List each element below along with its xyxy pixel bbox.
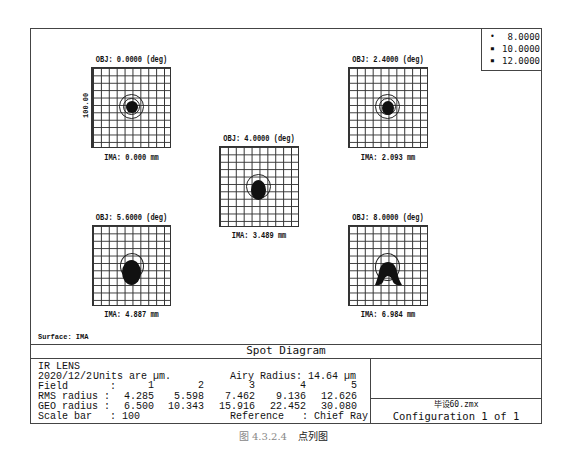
legend-item: ▪ 10.0000 [486, 43, 540, 55]
scale-bar-label: 100.00 [82, 93, 90, 118]
surface-label: Surface: IMA [38, 333, 88, 341]
legend-item: • 8.0000 [486, 31, 540, 43]
plot-3-ima-label: IMA: 3.489 mm [219, 230, 299, 240]
diagram-title: Spot Diagram [30, 344, 542, 358]
plot-1-obj-label: OBJ: 0.0000 (deg) [92, 54, 171, 64]
divider [370, 398, 542, 399]
plot-4-ima-label: IMA: 4.887 mm [92, 309, 171, 319]
plot-5-ima-label: IMA: 6.984 mm [348, 309, 428, 319]
plot-5-obj-label: OBJ: 8.0000 (deg) [348, 212, 428, 222]
legend-marker-icon: • [490, 31, 495, 43]
plot-4-obj-label: OBJ: 5.6000 (deg) [92, 212, 171, 222]
legend-item: ▪ 12.0000 [486, 55, 540, 67]
figure-caption: 图 4.3.2.4 点列图 [0, 428, 567, 443]
plot-1-ima-label: IMA: 0.000 mm [92, 152, 171, 162]
reference-info: Reference : Chief Ray [230, 412, 368, 422]
field-number: 4 [256, 381, 306, 391]
plot-2-obj-label: OBJ: 2.4000 (deg) [348, 54, 428, 64]
field-number: 3 [205, 381, 255, 391]
field-number: 1 [104, 381, 154, 391]
plot-1-spot [126, 101, 138, 113]
plot-3-obj-label: OBJ: 4.0000 (deg) [219, 133, 299, 143]
field-number: 5 [307, 381, 357, 391]
plot-2-ima-label: IMA: 2.093 mm [348, 152, 428, 162]
legend-marker-icon: ▪ [490, 55, 495, 67]
plot-4-spot [122, 260, 141, 285]
configuration-label: Configuration 1 of 1 [370, 411, 542, 422]
geo-radius-value: 10.343 [154, 402, 204, 412]
figure-title: 点列图 [298, 431, 328, 442]
figure-number: 图 4.3.2.4 [239, 431, 287, 442]
legend-marker-icon: ▪ [490, 43, 495, 55]
plot-3-spot [251, 180, 266, 200]
divider [30, 358, 542, 359]
wavelength-legend: • 8.0000 ▪ 10.0000 ▪ 12.0000 [481, 28, 542, 71]
plot-2-spot [382, 101, 394, 115]
scale-bar [91, 67, 92, 148]
scale-bar-info: Scale bar : 100 [38, 412, 140, 422]
field-number: 2 [154, 381, 204, 391]
file-name: 毕设60.zmx [370, 400, 542, 410]
plot-5-coma-spot [371, 260, 405, 288]
